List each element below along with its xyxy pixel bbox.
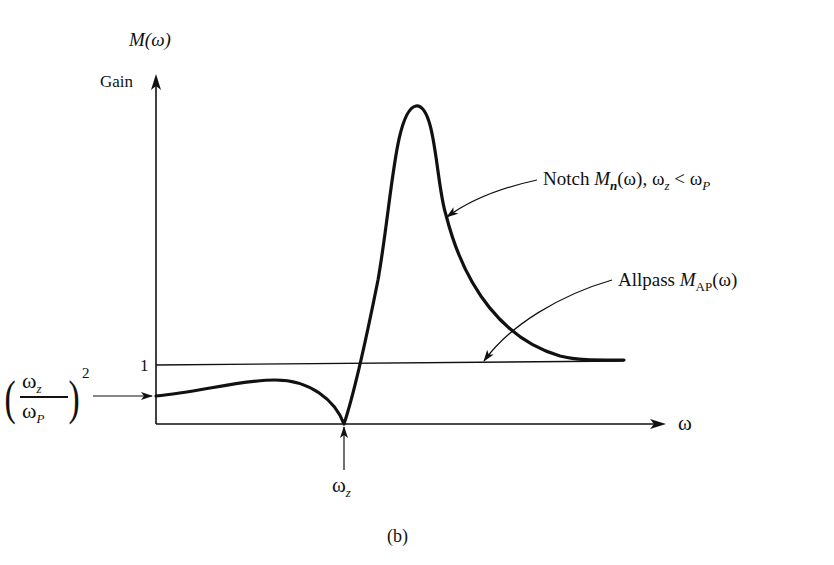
dc-den: ωP	[22, 400, 44, 425]
dc-gain-label: ( ωz ωP ) 2	[0, 368, 92, 428]
notch-curve	[156, 106, 624, 424]
dc-num: ωz	[22, 370, 42, 395]
notch-label: Notch Mn(ω), ωz < ωP	[543, 169, 710, 192]
open-paren: (	[4, 374, 15, 422]
wz-label: ωz	[332, 475, 351, 499]
allpass-label: Allpass MAP(ω)	[618, 270, 737, 293]
dc-exponent: 2	[82, 366, 90, 381]
panel-label: (b)	[387, 527, 408, 545]
tick-one-label: 1	[140, 357, 149, 374]
close-paren: )	[68, 374, 79, 422]
notch-leader-arrow	[447, 180, 537, 217]
y-axis-name: Gain	[100, 73, 133, 90]
y-axis-symbol: M(ω)	[129, 30, 171, 49]
allpass-line	[156, 361, 624, 365]
x-axis-symbol: ω	[678, 413, 692, 434]
